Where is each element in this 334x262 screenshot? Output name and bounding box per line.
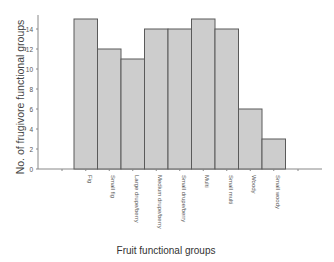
bar — [74, 19, 98, 169]
bar-chart-svg: 02468101214FigSmall figLarge drupe/berry… — [0, 0, 334, 262]
bar — [168, 29, 192, 169]
x-tick-label: Woody — [251, 175, 257, 194]
y-tick-label: 8 — [29, 86, 33, 93]
bar — [98, 49, 122, 169]
x-tick-label: Small multi — [228, 175, 234, 204]
y-axis-label: No. of frugivore functional groups — [14, 20, 26, 175]
x-tick-label: Large drupe/berry — [134, 175, 140, 223]
y-tick-label: 12 — [26, 46, 34, 53]
x-tick-label: Small fig — [110, 175, 116, 198]
bar — [262, 139, 286, 169]
x-tick-label: Medium drupe/berry — [157, 175, 163, 229]
y-tick-label: 2 — [29, 146, 33, 153]
bar — [121, 59, 145, 169]
x-tick-label: Multi — [204, 175, 210, 188]
x-tick-label: Small drupe/berry — [181, 175, 187, 222]
bar — [239, 109, 263, 169]
bar — [145, 29, 169, 169]
bar — [215, 29, 239, 169]
y-tick-label: 6 — [29, 106, 33, 113]
y-tick-label: 10 — [26, 66, 34, 73]
x-tick-label: Fig — [87, 175, 93, 183]
y-tick-label: 14 — [26, 26, 34, 33]
x-axis-label: Fruit functional groups — [117, 245, 216, 256]
bar — [192, 19, 216, 169]
y-tick-label: 0 — [29, 166, 33, 173]
x-tick-label: Small woody — [275, 175, 281, 209]
y-tick-label: 4 — [29, 126, 33, 133]
